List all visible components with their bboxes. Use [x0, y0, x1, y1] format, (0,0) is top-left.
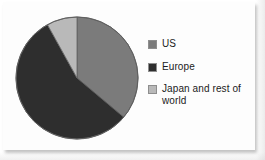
legend-item-japan-and-rest-of-world: Japan and rest of world: [148, 83, 254, 106]
legend-swatch-europe: [148, 63, 157, 72]
legend-label-europe: Europe: [162, 61, 195, 73]
figure-container: US Europe Japan and rest of world: [0, 0, 265, 160]
chart-legend: US Europe Japan and rest of world: [148, 38, 254, 117]
plot-area: US Europe Japan and rest of world: [0, 0, 265, 160]
legend-swatch-us: [148, 40, 157, 49]
pie-slices: [16, 17, 138, 139]
legend-swatch-japan-and-rest-of-world: [148, 85, 157, 94]
legend-label-us: US: [162, 38, 176, 50]
pie-chart: [10, 8, 146, 150]
legend-item-europe: Europe: [148, 61, 254, 73]
legend-item-us: US: [148, 38, 254, 50]
legend-label-japan-and-rest-of-world: Japan and rest of world: [162, 83, 254, 106]
